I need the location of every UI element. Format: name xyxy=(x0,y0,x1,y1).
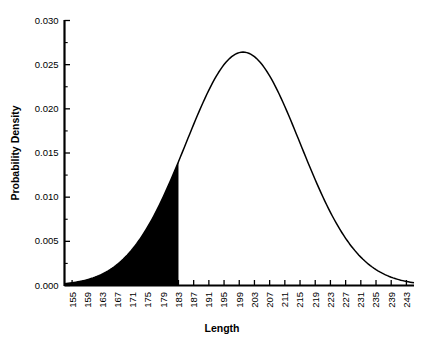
y-tick-label: 0.030 xyxy=(35,15,59,26)
x-tick-label: 235 xyxy=(370,292,381,308)
chart-canvas: 0.0000.0050.0100.0150.0200.0250.030 1551… xyxy=(0,0,422,343)
y-tick-label: 0.025 xyxy=(35,59,59,70)
y-axis-title: Probability Density xyxy=(9,105,21,200)
x-tick-label: 227 xyxy=(340,292,351,308)
x-tick-label: 163 xyxy=(97,292,108,308)
chart-background xyxy=(0,0,422,343)
x-tick-label: 195 xyxy=(218,292,229,308)
x-tick-label: 191 xyxy=(203,292,214,308)
x-tick-label: 159 xyxy=(82,292,93,308)
x-tick-label: 155 xyxy=(67,292,78,308)
x-tick-label: 243 xyxy=(401,292,412,308)
x-tick-label: 175 xyxy=(142,292,153,308)
x-tick-label: 167 xyxy=(112,292,123,308)
x-tick-label: 219 xyxy=(310,292,321,308)
probability-density-chart: 0.0000.0050.0100.0150.0200.0250.030 1551… xyxy=(0,0,422,343)
x-tick-label: 199 xyxy=(234,292,245,308)
x-tick-label: 171 xyxy=(127,292,138,308)
x-tick-label: 231 xyxy=(355,292,366,308)
x-tick-label: 207 xyxy=(264,292,275,308)
x-tick-label: 223 xyxy=(325,292,336,308)
x-tick-label: 179 xyxy=(158,292,169,308)
y-tick-label: 0.015 xyxy=(35,147,59,158)
x-tick-label: 203 xyxy=(249,292,260,308)
y-tick-label: 0.005 xyxy=(35,235,59,246)
y-tick-label: 0.010 xyxy=(35,191,59,202)
x-tick-label: 239 xyxy=(386,292,397,308)
x-tick-label: 215 xyxy=(294,292,305,308)
x-axis-title: Length xyxy=(205,322,240,334)
x-tick-label: 211 xyxy=(279,292,290,307)
x-tick-label: 183 xyxy=(173,292,184,308)
x-axis-tick-labels: 1551591631671711751791831871911951992032… xyxy=(67,292,412,308)
y-tick-label: 0.020 xyxy=(35,103,59,114)
x-tick-label: 187 xyxy=(188,292,199,308)
y-tick-label: 0.000 xyxy=(35,280,59,291)
